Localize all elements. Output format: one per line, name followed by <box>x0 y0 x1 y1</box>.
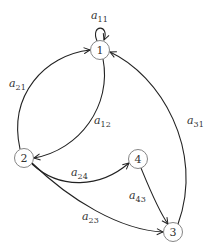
edge-label-a12: a12 <box>94 114 111 129</box>
node-4: 4 <box>129 150 148 169</box>
svg-text:3: 3 <box>170 226 177 239</box>
edge-1-1 <box>95 28 105 41</box>
edge-label-a24: a24 <box>71 166 88 181</box>
edge-3-1 <box>110 52 186 224</box>
svg-text:4: 4 <box>135 153 142 166</box>
svg-text:2: 2 <box>21 152 28 165</box>
edge-label-a21: a21 <box>9 77 26 92</box>
edge-label-a23: a23 <box>82 210 99 225</box>
node-2: 2 <box>15 149 34 168</box>
edge-label-a31: a31 <box>187 114 204 129</box>
edge-label-a43: a43 <box>129 189 146 204</box>
node-3: 3 <box>164 223 183 242</box>
edge-1-2 <box>34 59 105 158</box>
svg-text:1: 1 <box>97 44 104 57</box>
node-1: 1 <box>91 41 110 60</box>
edge-label-a11: a11 <box>91 9 108 24</box>
graph-canvas: 1 2 3 4 a11 a21 a12 a31 a24 a43 a23 <box>0 0 214 251</box>
